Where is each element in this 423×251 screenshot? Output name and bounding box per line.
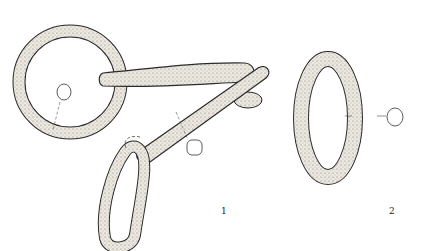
object-1-loop: [104, 136, 144, 247]
figure-canvas: 1 2: [0, 0, 423, 251]
drawing: [0, 0, 423, 251]
object-2-oval-ring: [301, 59, 403, 177]
figure-label-2: 2: [389, 206, 395, 216]
figure-label-1: 1: [221, 206, 227, 216]
